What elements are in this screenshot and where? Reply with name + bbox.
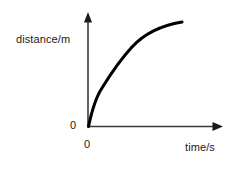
y-axis-origin-tick-label: 0	[70, 119, 76, 131]
y-axis-label: distance/m	[16, 33, 70, 45]
distance-curve	[89, 22, 183, 127]
distance-time-graph-figure: distance/m time/s 0 0	[0, 0, 243, 170]
x-axis-origin-tick-label: 0	[84, 138, 90, 150]
y-axis-arrowhead-icon	[84, 12, 92, 23]
x-axis-arrowhead-icon	[213, 122, 224, 131]
x-axis-label: time/s	[185, 141, 215, 153]
